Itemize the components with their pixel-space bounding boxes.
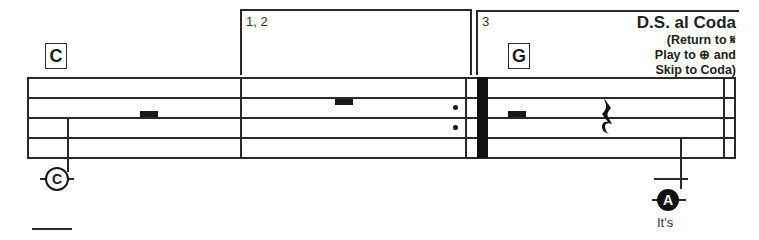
staff-line-2 [27,97,736,99]
ds-title: D.S. al Coda [637,13,736,33]
lyric-extender-line [32,228,72,230]
lyric-its: It's [657,215,673,230]
quarter-rest-icon [599,96,615,136]
ds-al-coda-instruction: D.S. al Coda (Return to 𝄋 Play to ⊕ and … [637,13,736,78]
barline-1 [240,77,242,158]
final-thin-barline [723,77,725,158]
start-barline [27,77,29,158]
staff-line-3 [27,117,736,119]
rehearsal-mark-g: G [508,43,530,69]
ending-number-1-2: 1, 2 [246,14,268,29]
ds-line-3: Skip to Coda) [637,63,736,78]
staff-line-5 [27,157,736,159]
repeat-dot-upper [453,105,458,110]
repeat-thin-barline [465,77,467,158]
note-marker-a: A [657,189,679,211]
staff-line-4 [27,137,736,139]
repeat-thick-barline [477,77,488,158]
rehearsal-mark-c: C [45,43,67,69]
half-rest-measure-1 [140,111,158,117]
ledger-line-a [654,178,688,180]
stem-a [680,137,682,189]
stem-c [67,117,69,172]
whole-rest-measure-2 [335,99,353,105]
ds-line-1: (Return to 𝄋 [637,33,736,48]
final-outer-barline [734,77,736,158]
ending-bracket-1-2 [240,9,472,75]
staff-line-1 [27,77,736,79]
ending-number-3: 3 [482,14,489,29]
note-marker-c: C [45,167,69,191]
ds-line-2: Play to ⊕ and [637,48,736,63]
half-rest-measure-3 [508,111,526,117]
repeat-dot-lower [453,125,458,130]
